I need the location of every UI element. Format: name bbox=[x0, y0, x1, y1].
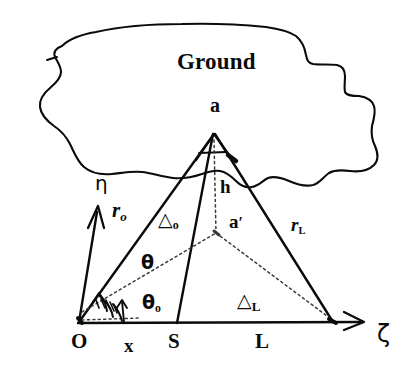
delta-L-subscript: L bbox=[252, 299, 261, 314]
source-S-label: S bbox=[168, 331, 180, 352]
delta-o-base: △ bbox=[158, 208, 173, 230]
delta-L-label: △L bbox=[237, 290, 260, 313]
r-L-label: rL bbox=[291, 215, 305, 236]
zeta-axis-label: ζ bbox=[377, 322, 390, 346]
origin-label: O bbox=[71, 331, 87, 352]
length-L-label: L bbox=[255, 331, 269, 352]
delta-L-base: △ bbox=[237, 289, 252, 311]
r-o-label: ro bbox=[112, 200, 127, 223]
zeta-axis-line bbox=[78, 322, 362, 323]
apex-small-triangle-base bbox=[199, 152, 226, 153]
eta-axis-label: η bbox=[95, 173, 108, 193]
theta-o-base: θ bbox=[142, 291, 155, 313]
apex-point-label: a bbox=[210, 95, 220, 115]
a-prime-base: a bbox=[229, 211, 239, 232]
theta-o-subscript: o bbox=[155, 302, 161, 315]
theta-label: θ bbox=[141, 253, 154, 272]
a-prime-label: a′ bbox=[229, 212, 243, 231]
a-prime-mark: ′ bbox=[239, 214, 244, 231]
ground-label: Ground bbox=[177, 50, 256, 73]
height-h-label: h bbox=[220, 177, 231, 196]
delta-o-label: △o bbox=[158, 209, 179, 231]
theta-o-label: θo bbox=[142, 293, 161, 315]
x-distance-label: x bbox=[124, 336, 134, 355]
delta-o-subscript: o bbox=[173, 218, 179, 232]
r-L-subscript: L bbox=[298, 225, 305, 236]
r-o-base: r bbox=[112, 198, 120, 222]
dotted-baseline-segment bbox=[82, 318, 140, 320]
r-o-subscript: o bbox=[120, 209, 127, 224]
dotted-line-a-prime-to-L bbox=[216, 233, 331, 319]
